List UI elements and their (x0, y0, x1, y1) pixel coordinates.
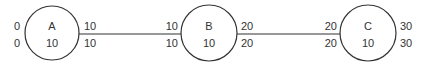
node-a-left-top: 0 (14, 20, 20, 32)
node-a-circle (25, 6, 79, 60)
node-c-left-bottom: 20 (325, 37, 337, 49)
node-a-label: A (48, 20, 55, 32)
node-b-label: B (205, 20, 212, 32)
node-c-right-bottom: 30 (400, 37, 412, 49)
node-a-right-bottom: 10 (84, 37, 96, 49)
diagram-canvas (0, 0, 426, 66)
node-c-circle (340, 5, 396, 61)
network-diagram: 0 0 A 10 10 10 10 10 B 10 20 20 20 20 C … (0, 0, 426, 66)
node-b-circle (181, 5, 237, 61)
node-b-left-bottom: 10 (166, 37, 178, 49)
node-a-value: 10 (46, 37, 58, 49)
node-a-right-top: 10 (84, 20, 96, 32)
node-c-value: 10 (362, 37, 374, 49)
node-b-right-bottom: 20 (241, 37, 253, 49)
node-b-right-top: 20 (241, 20, 253, 32)
node-a-left-bottom: 0 (14, 37, 20, 49)
node-c-label: C (364, 20, 372, 32)
node-b-value: 10 (203, 37, 215, 49)
node-b-left-top: 10 (166, 20, 178, 32)
node-c-right-top: 30 (400, 20, 412, 32)
node-c-left-top: 20 (325, 20, 337, 32)
